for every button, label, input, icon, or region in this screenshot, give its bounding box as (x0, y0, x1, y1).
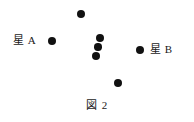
star-b-dot (136, 46, 144, 54)
cluster-top-dot (77, 10, 85, 18)
star-a-dot (48, 37, 56, 45)
cluster-middle-dot-center (94, 43, 101, 50)
cluster-middle-dot-upper (96, 34, 104, 42)
cluster-middle-dot-lower (92, 52, 100, 60)
star-a-label: 星 A (13, 34, 36, 46)
figure-caption: 図 2 (0, 99, 194, 111)
figure-container: 星 A 星 B 図 2 (0, 0, 194, 122)
star-b-label: 星 B (150, 43, 173, 55)
cluster-lower-dot (114, 79, 122, 87)
